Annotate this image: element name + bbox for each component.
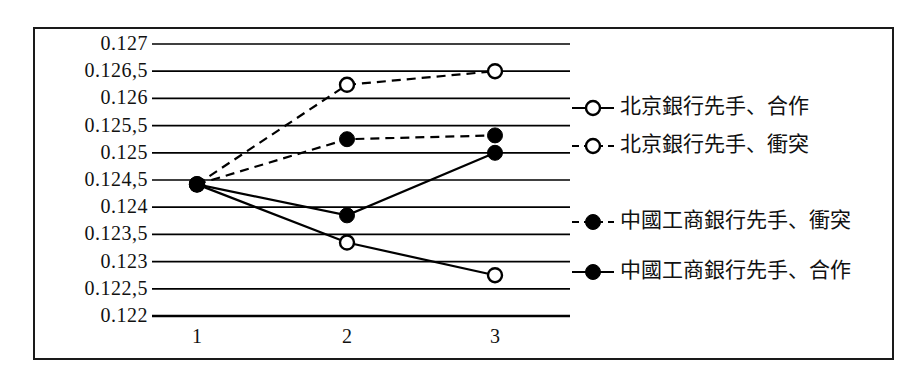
data-point [340,132,355,147]
legend-item-label: 北京銀行先手、合作 [620,95,809,117]
series-3 [190,128,503,192]
legend-markers [572,101,614,280]
data-point [488,64,502,78]
y-tick-label: 0.123,5 [40,223,148,243]
legend-marker [586,265,601,280]
legend-item-label: 中國工商銀行先手、衝突 [620,209,851,231]
x-tick-label: 1 [167,326,227,346]
series-lines [190,64,503,282]
y-tick-label: 0.123 [40,251,148,271]
y-tick-label: 0.125 [40,142,148,162]
legend-marker [586,215,601,230]
y-tick-label: 0.124,5 [40,169,148,189]
x-tick-label: 3 [465,326,525,346]
data-point [340,236,354,250]
legend-marker [586,139,600,153]
data-point [488,268,502,282]
data-point [340,78,354,92]
data-point [340,208,355,223]
series-line [197,153,495,216]
data-point [190,177,205,192]
y-tick-label: 0.127 [40,33,148,53]
legend-item-label: 北京銀行先手、衝突 [620,133,809,155]
data-point [488,128,503,143]
y-tick-label: 0.122,5 [40,278,148,298]
chart-figure: 0.1270.126,50.1260.125,50.1250.124,50.12… [0,0,921,383]
x-tick-label: 2 [317,326,377,346]
y-tick-label: 0.124 [40,196,148,216]
legend-item-label: 中國工商銀行先手、合作 [620,259,851,281]
y-tick-label: 0.126,5 [40,60,148,80]
y-tick-label: 0.125,5 [40,115,148,135]
y-tick-label: 0.122 [40,305,148,325]
y-tick-label: 0.126 [40,87,148,107]
legend-marker [586,101,600,115]
data-point [488,145,503,160]
series-2 [190,64,502,191]
